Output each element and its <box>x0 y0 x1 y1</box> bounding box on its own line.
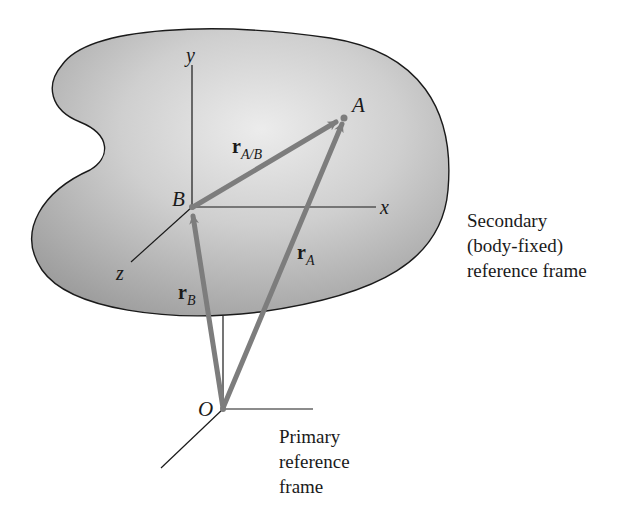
point-b-label: B <box>172 187 185 211</box>
x-axis-label: x <box>379 196 389 218</box>
r-b-main: r <box>178 281 187 303</box>
r-a-b-subscript: A/B <box>240 147 262 162</box>
rigid-body-shape <box>32 29 449 316</box>
svg-text:frame: frame <box>279 476 323 497</box>
svg-text:Secondary: Secondary <box>467 210 548 231</box>
r-a-b-main: r <box>232 135 241 157</box>
r-a-main: r <box>297 241 306 263</box>
svg-text:reference: reference <box>279 451 350 472</box>
point-a-dot <box>341 115 348 122</box>
svg-text:reference frame: reference frame <box>467 260 587 281</box>
relative-position-diagram: A B O y x z r A/B r A r B Secondary (bod… <box>0 0 636 519</box>
point-a-label: A <box>350 93 365 117</box>
point-o-dot <box>220 406 226 412</box>
y-axis-label: y <box>184 44 195 67</box>
point-b-dot <box>189 204 195 210</box>
primary-oblique-axis <box>161 409 223 468</box>
point-o-label: O <box>198 397 213 421</box>
z-axis-label: z <box>115 262 124 284</box>
secondary-frame-caption: Secondary (body-fixed) reference frame <box>467 210 587 281</box>
r-b-subscript: B <box>187 293 196 308</box>
primary-frame-caption: Primary reference frame <box>279 426 350 497</box>
svg-text:(body-fixed): (body-fixed) <box>467 235 563 257</box>
svg-text:Primary: Primary <box>279 426 341 447</box>
r-a-subscript: A <box>305 253 315 268</box>
